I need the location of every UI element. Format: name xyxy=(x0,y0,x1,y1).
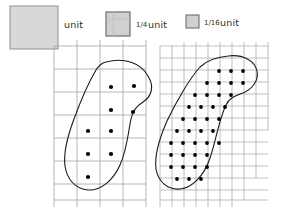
coarse-dot xyxy=(86,175,90,179)
sixteenth-unit-label: unit xyxy=(220,17,239,28)
fine-dot xyxy=(193,153,197,157)
fine-dot xyxy=(193,141,197,145)
fine-dot xyxy=(175,177,179,181)
fine-dot xyxy=(217,93,221,97)
fine-dot xyxy=(205,141,209,145)
coarse-dot xyxy=(109,85,113,89)
quarter-unit-swatch xyxy=(106,12,130,36)
sixteenth-unit-swatch xyxy=(186,15,199,28)
fine-dot xyxy=(241,69,245,73)
fine-dot xyxy=(217,81,221,85)
quarter-unit-fraction: 1/4 xyxy=(136,21,148,29)
fine-dot xyxy=(181,165,185,169)
fine-dot xyxy=(193,165,197,169)
coarse-dot xyxy=(109,108,113,112)
fine-dot xyxy=(169,165,173,169)
fine-dot xyxy=(211,105,215,109)
fine-dot xyxy=(187,129,191,133)
coarse-dot xyxy=(131,110,135,114)
fine-dot xyxy=(241,81,245,85)
fine-dot xyxy=(217,117,221,121)
fine-dot xyxy=(169,141,173,145)
fine-dot xyxy=(187,177,191,181)
fine-dot xyxy=(211,129,215,133)
coarse-dot xyxy=(86,152,90,156)
unit-label: unit xyxy=(64,19,83,30)
fine-dot xyxy=(217,69,221,73)
quarter-unit-label: unit xyxy=(148,19,167,30)
fine-dot xyxy=(193,117,197,121)
fine-dot xyxy=(223,105,227,109)
coarse-dot xyxy=(132,84,136,88)
fine-dot xyxy=(205,93,209,97)
fine-dot xyxy=(199,105,203,109)
fine-dot xyxy=(229,93,233,97)
fine-dot xyxy=(205,117,209,121)
fine-dot xyxy=(229,69,233,73)
sixteenth-unit-fraction: 1/16 xyxy=(204,19,220,27)
fine-dot xyxy=(199,129,203,133)
fine-dot xyxy=(181,141,185,145)
fine-dot xyxy=(205,81,209,85)
coarse-dot xyxy=(86,129,90,133)
fine-dot xyxy=(187,105,191,109)
fine-dot xyxy=(199,177,203,181)
fine-dot xyxy=(229,81,233,85)
fine-dot xyxy=(181,153,185,157)
fine-dot xyxy=(205,153,209,157)
fine-dot xyxy=(169,153,173,157)
fine-dot xyxy=(181,117,185,121)
unit-swatch xyxy=(10,6,58,49)
fine-dot xyxy=(205,165,209,169)
area-estimation-figure: unit 1/4 unit 1/16 unit xyxy=(0,0,284,219)
coarse-dot xyxy=(109,129,113,133)
fine-dot xyxy=(217,141,221,145)
coarse-dot xyxy=(109,152,113,156)
fine-dot xyxy=(175,129,179,133)
fine-dot xyxy=(193,93,197,97)
